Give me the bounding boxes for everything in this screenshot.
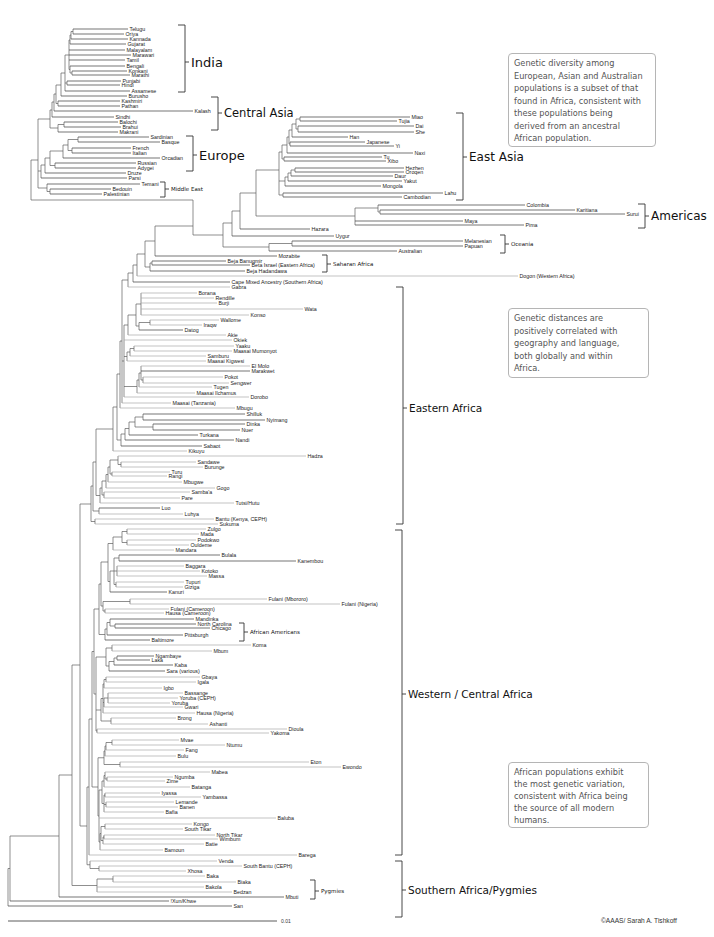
leaf-node: Tu [284, 154, 390, 160]
leaf-node: Gabra [128, 284, 246, 290]
population-label: Tujia [399, 118, 410, 124]
leaf-node: Luo [99, 505, 170, 511]
leaf-node: Nyimang [143, 417, 287, 423]
population-label: Bulu [178, 753, 189, 759]
leaf-node: Turkana [129, 432, 219, 438]
leaf-node: Maasai Ilchamus [137, 390, 237, 396]
group-bracket: Americas [638, 204, 707, 228]
population-label: Italian [133, 150, 147, 156]
leaf-node: Ouldeme [127, 542, 212, 548]
population-label: Giziga [185, 584, 200, 590]
bracket-line [178, 25, 189, 92]
leaf-node: Ewondo [120, 764, 362, 770]
group-label: East Asia [469, 150, 524, 164]
population-label: Oroqen [406, 169, 424, 175]
annotation-box-genetic-distances: Genetic distances are positively correla… [508, 308, 649, 378]
population-label: Venda [219, 858, 234, 864]
leaf-node: Baka [113, 873, 219, 879]
leaf-node: Bakola [97, 884, 222, 890]
annotation-line: African population. [514, 132, 650, 145]
leaf-node: Yoruba [108, 700, 188, 706]
population-label: Samba'a [192, 489, 213, 495]
population-label: Gogo [217, 485, 230, 491]
bracket-line [456, 113, 467, 200]
population-label: Tutsi/Hutu [236, 500, 260, 506]
leaf-node: Han [292, 134, 359, 140]
leaf-node: Melanesian [292, 238, 492, 244]
population-label: Banen [180, 804, 195, 810]
population-label: Baka [207, 873, 219, 879]
annotation-line: both globally and within [514, 350, 643, 363]
population-label: Yakut [404, 178, 418, 184]
leaf-node: Beja Banuqmir [152, 258, 262, 264]
leaf-node: Marakwet [141, 368, 275, 374]
population-label: Mbuti [286, 894, 299, 900]
leaf-node: Mabea [105, 769, 228, 775]
population-label: Pathan [122, 103, 139, 109]
leaf-node: Borana [141, 290, 216, 296]
population-label: !Xun/Khwe [171, 898, 197, 904]
population-label: Bakola [206, 884, 222, 890]
leaf-node: Naxi [287, 150, 425, 156]
leaf-node: Mvae [112, 737, 194, 743]
leaf-node: Italian [72, 150, 147, 156]
population-label: Baluba [278, 815, 295, 821]
leaf-node: Mongola [285, 183, 403, 189]
group-label: Americas [651, 209, 707, 223]
population-label: Karitiana [577, 207, 598, 213]
leaf-node: Sara (various) [109, 668, 200, 674]
population-label: Dorobo [251, 394, 268, 400]
annotation-box-diversity-subset: Genetic diversity among European, Asian … [508, 53, 656, 147]
population-label: Nuer [242, 427, 254, 433]
group-label: Eastern Africa [409, 402, 482, 414]
population-label: Maya [465, 218, 478, 224]
leaf-node: Daur [291, 173, 406, 179]
population-label: Igala [198, 679, 210, 685]
leaf-node: Hezhen [295, 165, 424, 171]
leaf-node: Bafia [104, 809, 178, 815]
leaf-node: Pare [104, 495, 193, 501]
bracket-line [310, 880, 319, 899]
annotation-line: these populations being [514, 107, 650, 120]
annotation-line: Genetic diversity among [514, 57, 650, 70]
population-label: Luo [162, 505, 171, 511]
population-label: Laka [152, 657, 164, 663]
leaf-node: Bamoun [100, 847, 184, 853]
bracket-line [160, 182, 169, 197]
leaf-node: Beja Hadandawa [150, 268, 287, 274]
leaf-node: Japanese [290, 139, 390, 145]
leaf-node: Hausa (Nigeria) [103, 710, 234, 716]
leaf-node: Ngumba [107, 774, 195, 780]
population-label: Burji [219, 300, 230, 306]
leaf-node: Hadza [118, 453, 323, 459]
population-label: Maasai Kigwesi [208, 358, 245, 364]
population-label: Sabaot [204, 443, 221, 449]
population-label: Cambodian [404, 194, 431, 200]
population-label: Maasai Ilchamus [197, 390, 237, 396]
population-label: Dogon (Western Africa) [520, 273, 575, 279]
annotation-line: positively correlated with [514, 325, 643, 338]
population-label: Dioula [289, 726, 304, 732]
leaf-node: Xhosa [99, 868, 203, 874]
leaf-node: Wata [141, 306, 317, 312]
population-label: Kanembou [298, 558, 324, 564]
population-label: Maasai (Tanzania) [173, 400, 217, 406]
population-label: Colombia [527, 202, 549, 208]
population-label: Basque [162, 139, 180, 145]
group-bracket: Saharan Africa [322, 255, 373, 272]
leaf-node: Batie [103, 841, 218, 847]
population-label: Fulani (Mbororo) [269, 596, 308, 602]
leaf-node: Cambodian [283, 194, 431, 200]
population-label: Makrani [120, 129, 139, 135]
group-bracket: Middle East [160, 182, 204, 197]
leaf-node: Ngambaye [117, 653, 181, 659]
leaf-node: Maya [355, 218, 478, 224]
annotation-line: geography and language, [514, 337, 643, 350]
annotation-line: populations is a subset of that [514, 82, 650, 95]
leaf-node: Kanembou [119, 558, 323, 564]
copyright-credit: ©AAAS/ Sarah A. Tishkoff [601, 917, 677, 924]
group-label: Europe [199, 148, 245, 163]
population-label: Bafia [166, 809, 178, 815]
leaf-node: Pathan [58, 103, 138, 109]
leaf-node: Wallome [150, 317, 241, 323]
